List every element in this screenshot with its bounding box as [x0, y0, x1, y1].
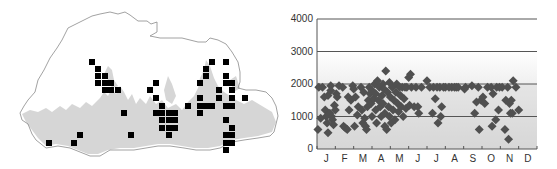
record-square [172, 110, 178, 116]
x-tick-label: N [503, 153, 517, 164]
record-square [102, 87, 108, 93]
x-tick-label: F [338, 153, 352, 164]
record-square [216, 95, 222, 101]
record-square [197, 110, 203, 116]
record-square [166, 132, 172, 138]
x-tick-label: M [356, 153, 370, 164]
record-square [102, 73, 108, 79]
forest-region [164, 76, 176, 104]
record-square [166, 110, 172, 116]
record-square [223, 80, 229, 86]
record-square [95, 73, 101, 79]
record-square [153, 110, 159, 116]
x-tick-label: J [411, 153, 425, 164]
record-square [159, 117, 165, 123]
record-square [46, 140, 52, 146]
record-square [223, 103, 229, 109]
record-square [77, 132, 83, 138]
y-tick-label: 3000 [283, 46, 313, 57]
scatter-plot [280, 0, 557, 169]
record-square [166, 125, 172, 131]
x-tick-label: S [466, 153, 480, 164]
record-square [197, 80, 203, 86]
record-square [153, 80, 159, 86]
record-square [147, 87, 153, 93]
elevation-by-month-chart: 01000200030004000 JFMAMJJASOND [280, 0, 557, 169]
record-square [209, 103, 215, 109]
record-square [229, 87, 235, 93]
record-square [121, 110, 127, 116]
x-tick-label: M [393, 153, 407, 164]
record-square [172, 125, 178, 131]
record-square [159, 103, 165, 109]
y-tick-label: 4000 [283, 13, 313, 24]
record-square [128, 132, 134, 138]
record-square [185, 103, 191, 109]
record-square [197, 95, 203, 101]
y-tick-label: 2000 [283, 78, 313, 89]
forest-region [22, 60, 276, 154]
record-square [108, 80, 114, 86]
record-square [159, 110, 165, 116]
record-square [223, 73, 229, 79]
x-tick-label: J [319, 153, 333, 164]
record-square [89, 59, 95, 65]
x-tick-label: J [429, 153, 443, 164]
record-square [229, 140, 235, 146]
record-square [223, 59, 229, 65]
record-square [197, 103, 203, 109]
record-square [203, 66, 209, 72]
record-square [229, 95, 235, 101]
record-square [71, 140, 77, 146]
record-square [223, 117, 229, 123]
x-tick-label: O [484, 153, 498, 164]
y-tick-label: 0 [283, 143, 313, 154]
record-square [229, 80, 235, 86]
record-square [223, 132, 229, 138]
record-square [209, 59, 215, 65]
record-square [229, 132, 235, 138]
record-square [216, 87, 222, 93]
record-square [203, 103, 209, 109]
record-square [108, 87, 114, 93]
record-square [115, 87, 121, 93]
record-square [166, 117, 172, 123]
record-square [223, 140, 229, 146]
record-square [229, 103, 235, 109]
record-square [102, 80, 108, 86]
record-square [203, 73, 209, 79]
record-square [159, 125, 165, 131]
record-square [242, 95, 248, 101]
record-square [153, 95, 159, 101]
record-square [95, 80, 101, 86]
x-tick-label: A [374, 153, 388, 164]
y-tick-label: 1000 [283, 111, 313, 122]
x-tick-label: D [521, 153, 535, 164]
record-square [229, 125, 235, 131]
record-square [95, 66, 101, 72]
record-square [172, 117, 178, 123]
x-tick-label: A [448, 153, 462, 164]
forest-area [22, 60, 276, 154]
distribution-map [0, 0, 290, 169]
record-square [223, 147, 229, 153]
